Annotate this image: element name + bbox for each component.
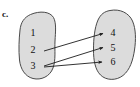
domain-element-1: 1 [28,28,38,38]
codomain-element-6: 6 [108,57,118,67]
codomain-element-4: 4 [108,28,118,38]
domain-element-2: 2 [28,45,38,55]
domain-element-3: 3 [28,61,38,71]
codomain-element-5: 5 [108,43,118,53]
mapping-diagram-figure: c. 1 2 3 4 5 6 [0,0,140,87]
diagram-canvas [0,0,140,87]
